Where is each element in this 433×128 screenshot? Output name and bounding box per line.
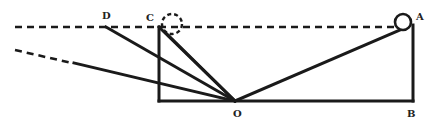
- label-d: D: [102, 10, 111, 21]
- label-c: C: [146, 12, 154, 23]
- dashed-ball-near-c: [162, 14, 182, 34]
- ray-o-to-lower-left: [74, 63, 235, 101]
- label-a: A: [415, 11, 424, 22]
- geometry-diagram: D C A O B: [0, 0, 433, 128]
- lower-ray-dashed-extension: [15, 50, 72, 63]
- label-o: O: [233, 108, 242, 119]
- ray-o-to-a: [235, 30, 400, 101]
- ball-at-a: [395, 14, 411, 30]
- label-b: B: [407, 108, 415, 119]
